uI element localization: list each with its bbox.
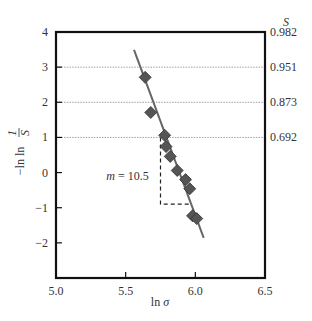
y-axis-ticks: −2−101234: [35, 25, 62, 250]
y-tick-label: 3: [42, 60, 48, 74]
gridlines: [56, 67, 265, 137]
svg-text:1: 1: [5, 130, 19, 136]
y2-tick-label: 0.692: [270, 130, 297, 144]
y-tick-label: 0: [42, 166, 48, 180]
x-tick-label: 5.5: [118, 284, 133, 298]
data-points: [139, 71, 203, 224]
y2-tick-label: 0.951: [270, 60, 297, 74]
weibull-chart: 5.05.56.06.5 −2−101234 0.6920.8730.9510.…: [0, 0, 312, 321]
y2-axis-ticks: 0.6920.8730.9510.982: [270, 25, 297, 144]
y-tick-label: −2: [35, 236, 48, 250]
y2-axis-title: S: [283, 15, 289, 29]
y2-tick-label: 0.873: [270, 95, 297, 109]
y-axis-title: −ln ln 1 S: [5, 128, 32, 175]
data-point-diamond: [171, 164, 183, 176]
x-tick-label: 6.0: [188, 284, 203, 298]
x-tick-label: 6.5: [258, 284, 273, 298]
y-tick-label: 2: [42, 95, 48, 109]
x-axis-title: ln σ: [151, 295, 170, 309]
y-tick-label: 4: [42, 25, 48, 39]
y-tick-label: 1: [42, 130, 48, 144]
data-point-diamond: [139, 71, 151, 83]
y-tick-label: −1: [35, 201, 48, 215]
svg-text:−ln ln: −ln ln: [13, 147, 27, 175]
svg-text:S: S: [18, 130, 32, 136]
x-tick-label: 5.0: [49, 284, 64, 298]
slope-annotation: m = 10.5: [106, 169, 148, 183]
